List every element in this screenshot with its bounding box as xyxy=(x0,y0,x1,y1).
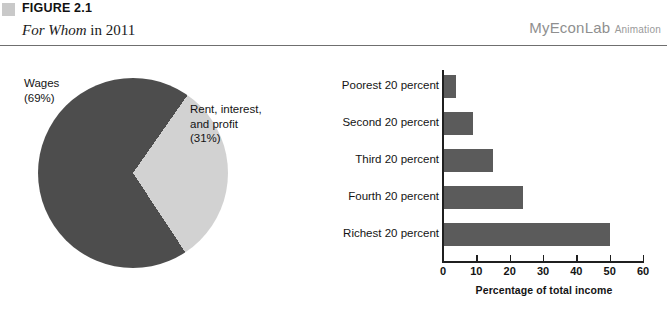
x-axis-tick-label: 0 xyxy=(440,265,446,277)
x-axis-tick xyxy=(543,255,544,262)
x-axis-tick xyxy=(476,255,477,262)
figure-subtitle: For Whom in 2011 xyxy=(22,22,135,39)
bar-chart: Poorest 20 percentSecond 20 percentThird… xyxy=(330,50,667,312)
figure-header: FIGURE 2.1 xyxy=(0,0,667,18)
bar xyxy=(443,186,523,209)
bar-row: Fourth 20 percent xyxy=(330,183,667,213)
bar-row: Third 20 percent xyxy=(330,146,667,176)
x-axis-tick-label: 30 xyxy=(537,265,549,277)
x-axis-tick xyxy=(510,255,511,262)
figure-number: FIGURE 2.1 xyxy=(22,1,92,15)
bar-row: Poorest 20 percent xyxy=(330,72,667,102)
pie-chart-panel: Wages (69%) Rent, interest, and profit (… xyxy=(0,50,320,312)
pie-slice-label-rent-line3: (31%) xyxy=(190,131,262,146)
bar-row: Second 20 percent xyxy=(330,109,667,139)
pie-slice-label-rent: Rent, interest, and profit (31%) xyxy=(190,102,262,146)
x-axis-title: Percentage of total income xyxy=(443,284,645,296)
figure-subtitle-roman: in 2011 xyxy=(87,22,136,38)
bar xyxy=(443,75,456,98)
x-axis-tick xyxy=(610,255,611,262)
brand-name: MyEconLab xyxy=(529,19,610,36)
header-divider xyxy=(0,45,667,46)
x-axis-tick xyxy=(443,255,444,262)
gray-square-icon xyxy=(2,3,15,16)
myeconlab-brand[interactable]: MyEconLab Animation xyxy=(529,19,661,37)
bar xyxy=(443,112,473,135)
pie-slice-label-wages: Wages (69%) xyxy=(24,76,59,105)
figure-subtitle-italic: For Whom xyxy=(22,22,87,38)
bar-category-label: Second 20 percent xyxy=(342,116,439,128)
x-axis-tick-label: 60 xyxy=(637,265,649,277)
x-axis-tick-label: 10 xyxy=(470,265,482,277)
pie-slice-label-rent-line2: and profit xyxy=(190,117,262,132)
y-axis-line xyxy=(442,70,444,262)
pie-slice-label-rent-line1: Rent, interest, xyxy=(190,102,262,117)
x-axis-tick-label: 20 xyxy=(504,265,516,277)
x-axis-tick-label: 50 xyxy=(604,265,616,277)
brand-animation-label: Animation xyxy=(615,24,661,35)
bar xyxy=(443,149,493,172)
pie-slice-label-wages-line2: (69%) xyxy=(24,91,59,106)
bar-category-label: Third 20 percent xyxy=(355,153,439,165)
bar-row: Richest 20 percent xyxy=(330,220,667,250)
bar-category-label: Fourth 20 percent xyxy=(348,190,439,202)
x-axis-tick xyxy=(643,255,644,262)
bar-category-label: Richest 20 percent xyxy=(343,227,439,239)
bar xyxy=(443,223,610,246)
x-axis-tick xyxy=(576,255,577,262)
bar-chart-panel: Poorest 20 percentSecond 20 percentThird… xyxy=(330,50,667,312)
x-axis-tick-label: 40 xyxy=(570,265,582,277)
pie-slice-label-wages-line1: Wages xyxy=(24,76,59,91)
bar-category-label: Poorest 20 percent xyxy=(342,79,439,91)
